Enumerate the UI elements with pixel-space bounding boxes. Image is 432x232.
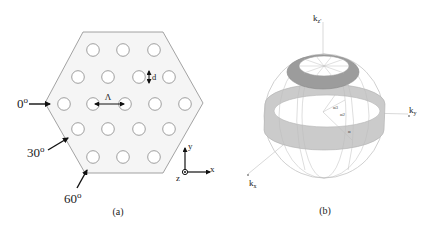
angle-label-30: 30o <box>27 144 45 160</box>
angle-label-60: 60o <box>64 190 82 206</box>
hole <box>58 98 71 111</box>
hole <box>117 151 130 164</box>
lattice-constant-label: Λ <box>105 92 112 102</box>
hole <box>133 123 146 136</box>
hole <box>149 98 162 111</box>
angle-label-alpha: α <box>348 129 351 134</box>
hole <box>148 151 161 164</box>
incidence-arrow-60 <box>77 170 87 188</box>
angle-label-alpha2: α2 <box>340 112 346 117</box>
hole <box>102 71 115 84</box>
ky-label: ky <box>409 105 417 116</box>
coordinate-axes: y x z <box>176 141 215 183</box>
hole <box>163 71 176 84</box>
z-axis-label: z <box>176 173 180 183</box>
hole <box>179 98 192 111</box>
hole <box>72 71 85 84</box>
middle-band-inner <box>274 95 380 127</box>
x-axis-label: x <box>210 164 215 174</box>
hole <box>117 44 130 57</box>
kx-label: kx <box>249 178 257 189</box>
hole <box>163 123 176 136</box>
hole <box>87 151 100 164</box>
hole <box>102 123 115 136</box>
panel-a: Λ d 0o 30o 60o y x z (a) <box>17 32 215 218</box>
angle-label-0: 0o <box>17 95 29 111</box>
hole <box>148 44 161 57</box>
hole <box>133 71 146 84</box>
hole <box>87 44 100 57</box>
caption-b: (b) <box>319 205 331 217</box>
panel-b: α3 α2 α kz' ky kx (b) <box>247 13 416 217</box>
incidence-arrow-30 <box>48 138 68 150</box>
kz-label: kz' <box>313 13 321 24</box>
figure-canvas: Λ d 0o 30o 60o y x z (a) <box>0 0 432 232</box>
y-axis-label: y <box>188 141 193 151</box>
angle-label-alpha3: α3 <box>333 105 339 110</box>
caption-a: (a) <box>112 206 123 218</box>
hole <box>72 123 85 136</box>
